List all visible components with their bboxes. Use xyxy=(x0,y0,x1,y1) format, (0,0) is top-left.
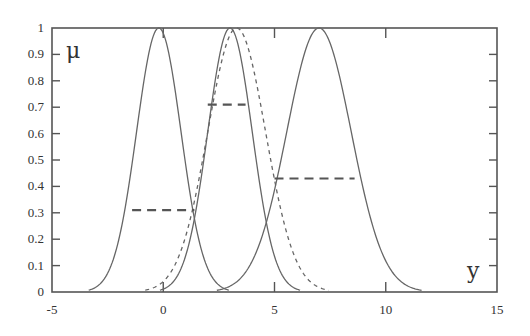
curve-membership-4 xyxy=(217,28,422,290)
y-tick-label: 0.1 xyxy=(28,258,44,273)
y-tick-label: 0 xyxy=(38,284,45,299)
curve-membership-1 xyxy=(89,28,229,290)
y-tick-label: 1 xyxy=(38,20,45,35)
y-tick-label: 0.7 xyxy=(28,99,45,114)
membership-chart: 00.10.20.30.40.50.60.70.80.91-5051015 μ … xyxy=(0,0,530,336)
tick-labels: 00.10.20.30.40.50.60.70.80.91-5051015 xyxy=(28,20,504,317)
x-tick-label: 15 xyxy=(491,302,504,317)
dashed-level-lines xyxy=(132,105,355,211)
y-tick-label: 0.8 xyxy=(28,73,44,88)
y-tick-label: 0.2 xyxy=(28,231,44,246)
x-tick-label: 5 xyxy=(271,302,278,317)
y-tick-label: 0.5 xyxy=(28,152,44,167)
y-tick-label: 0.3 xyxy=(28,205,44,220)
x-tick-label: -5 xyxy=(47,302,58,317)
membership-curves xyxy=(89,28,422,290)
y-tick-label: 0.6 xyxy=(28,126,45,141)
plot-border xyxy=(52,28,497,292)
y-tick-label: 0.9 xyxy=(28,46,44,61)
axis-ticks xyxy=(52,28,497,292)
y-tick-label: 0.4 xyxy=(28,178,45,193)
plot-frame xyxy=(52,28,497,292)
x-tick-label: 0 xyxy=(160,302,167,317)
x-tick-label: 10 xyxy=(379,302,392,317)
x-axis-name: y xyxy=(466,258,480,283)
y-axis-name: μ xyxy=(66,38,80,63)
